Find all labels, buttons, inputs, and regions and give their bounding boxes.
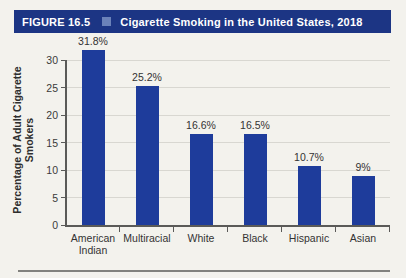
y-tick-label: 10: [32, 165, 58, 176]
y-axis-title-line: Percentage of Adult Cigarette: [11, 55, 23, 225]
y-tick-label: 30: [32, 55, 58, 66]
bar: [352, 176, 375, 226]
bar-value-label: 31.8%: [65, 36, 121, 47]
y-tick-label: 0: [32, 220, 58, 231]
bar-value-label: 9%: [335, 162, 391, 173]
y-axis-line: [65, 60, 67, 225]
bar-value-label: 10.7%: [281, 152, 337, 163]
x-category-label: Black: [227, 232, 283, 244]
bar: [190, 134, 213, 225]
bar-value-label: 16.5%: [227, 120, 283, 131]
x-category-label: American Indian: [65, 232, 121, 256]
gridline: [66, 60, 390, 61]
x-axis-tick: [389, 227, 390, 232]
x-category-label: White: [173, 232, 229, 244]
y-tick-label: 15: [32, 138, 58, 149]
bar: [298, 166, 321, 225]
bar-value-label: 16.6%: [173, 120, 229, 131]
bar-chart: Percentage of Adult CigaretteSmokers 051…: [0, 0, 406, 278]
y-tick-label: 5: [32, 193, 58, 204]
bar: [136, 86, 159, 225]
y-tick-label: 25: [32, 83, 58, 94]
x-category-label: Multiracial: [119, 232, 175, 244]
textbook-figure-page: { "figure_header": { "label": "FIGURE 16…: [0, 0, 406, 278]
gridline: [66, 115, 390, 116]
x-category-label: Asian: [335, 232, 391, 244]
gridline: [66, 142, 390, 143]
gridline: [66, 87, 390, 88]
gridline: [66, 197, 390, 198]
x-category-label: Hispanic: [281, 232, 337, 244]
bar-value-label: 25.2%: [119, 72, 175, 83]
page-rule-line: [18, 270, 390, 272]
y-tick-label: 20: [32, 110, 58, 121]
bar: [82, 50, 105, 225]
bar: [244, 134, 267, 225]
